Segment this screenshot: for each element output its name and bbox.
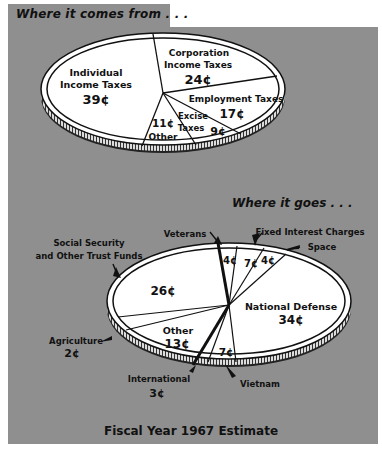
income-value-corp: 24¢ <box>184 72 211 87</box>
footer-caption: Fiscal Year 1967 Estimate <box>0 424 382 438</box>
income-label-corp-2: Income Taxes <box>164 60 232 70</box>
budget-infographic: Where it comes from . . . Where it goes … <box>0 0 382 452</box>
income-value-individual: 39¢ <box>82 92 109 107</box>
outgo-label-ss-1: Social Security <box>53 238 125 248</box>
outgo-label-space: Space <box>308 242 337 252</box>
income-value-other: 11¢ <box>152 117 174 129</box>
income-value-excise: 9¢ <box>210 125 225 138</box>
outgo-pie: 26¢ National Defense 34¢ Other 13¢ 7¢ 4¢… <box>36 227 365 400</box>
outgo-value-veterans: 4¢ <box>223 255 237 266</box>
outgo-value-vietnam: 7¢ <box>219 346 234 358</box>
outgo-label-ss-2: and Other Trust Funds <box>36 251 143 261</box>
outgo-label-defense: National Defense <box>245 301 337 312</box>
pie-charts: Individual Income Taxes 39¢ Corporation … <box>0 0 382 452</box>
outgo-label-veterans: Veterans <box>164 229 207 239</box>
outgo-label-agriculture: Agriculture <box>49 336 103 346</box>
income-label-corp-1: Corporation <box>169 48 229 58</box>
outgo-value-ss: 26¢ <box>150 284 175 298</box>
outgo-label-international: International <box>128 374 191 384</box>
outgo-label-fixed-interest: Fixed Interest Charges <box>255 227 364 237</box>
income-label-excise-1: Excise <box>178 111 208 121</box>
outgo-value-other: 13¢ <box>164 337 189 351</box>
income-label-other: Other <box>149 132 178 142</box>
outgo-value-agriculture: 2¢ <box>64 347 79 360</box>
outgo-value-space: 4¢ <box>261 255 275 266</box>
outgo-value-defense: 34¢ <box>278 313 303 327</box>
outgo-value-fixed-interest: 7¢ <box>244 258 258 269</box>
income-value-employment: 17¢ <box>219 107 244 121</box>
outgo-value-international: 3¢ <box>149 387 164 400</box>
outgo-label-vietnam: Vietnam <box>240 379 280 389</box>
income-pie: Individual Income Taxes 39¢ Corporation … <box>41 33 285 153</box>
outgo-label-other: Other <box>163 325 194 336</box>
income-label-individual-1: Individual <box>69 67 122 78</box>
income-label-employment: Employment Taxes <box>189 94 284 104</box>
income-label-individual-2: Income Taxes <box>60 79 132 90</box>
income-label-excise-2: Taxes <box>178 123 205 133</box>
